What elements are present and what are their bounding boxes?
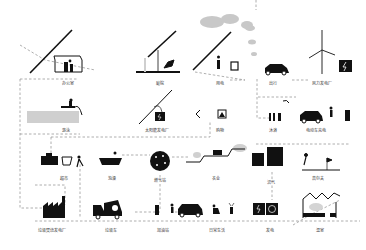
biogas-tank-icon [252, 147, 283, 166]
greenhouse-icon [303, 193, 340, 218]
label-fuel-station: 加油站 [157, 228, 169, 233]
diagram-artwork [0, 0, 366, 250]
label-shopping-goods: 购物 [216, 128, 224, 133]
car-icon [265, 64, 289, 75]
label-pool: 游泳 [62, 128, 70, 133]
label-greenhouse: 温室 [316, 228, 324, 233]
label-shower: 沐浴 [269, 128, 277, 133]
bath-icon [99, 152, 122, 166]
label-daily-life: 日常生活 [209, 228, 225, 233]
label-travel: 出行 [269, 81, 277, 86]
daily-life-icon [213, 203, 234, 214]
label-electricity: 发电 [266, 228, 274, 233]
wind-power-battery-icon [339, 60, 352, 72]
solar-plant-icon [139, 90, 172, 124]
label-waste-plant: 垃圾焚烧发电厂 [38, 228, 66, 233]
label-farming: 农业 [212, 176, 220, 181]
ev-charging-icon [300, 107, 350, 124]
farming-icon [186, 144, 247, 162]
gas-node-icon [150, 151, 170, 171]
label-garden: 庭院 [156, 81, 164, 86]
label-office: 办公室 [62, 81, 74, 86]
label-golf: 高尔夫 [312, 176, 324, 181]
shopping-goods-icon [196, 110, 226, 118]
label-biogas: 沼气 [267, 180, 275, 185]
garbage-truck-icon [93, 200, 122, 219]
label-power-use: 用电 [216, 81, 224, 86]
office-icon [30, 30, 82, 73]
label-gas-station-node: 燃气站 [154, 178, 166, 183]
label-bath: 泡澡 [108, 176, 116, 181]
pool-icon [27, 98, 82, 123]
electricity-icon [253, 203, 278, 215]
label-solar-plant: 太阳能发电厂 [145, 128, 169, 133]
wind-turbine-icon [309, 30, 335, 74]
garden-icon [136, 31, 180, 72]
shower-icon [269, 100, 289, 121]
golf-icon [302, 154, 340, 171]
factory-icon [43, 196, 65, 218]
label-ev-charging: 电动车充电 [306, 128, 326, 133]
label-supermarket: 超市 [60, 176, 68, 181]
label-wind-plant: 风力发电厂 [312, 81, 332, 86]
power-use-icon [193, 32, 238, 70]
supermarket-icon [41, 153, 83, 167]
label-garbage-truck: 垃圾车 [105, 228, 117, 233]
energy-flow-diagram: 办公室 庭院 用电 出行 风力发电厂 游泳 太阳能发电厂 购物 沐浴 电动车充电… [0, 0, 366, 250]
fuel-station-car-icon [155, 204, 203, 218]
